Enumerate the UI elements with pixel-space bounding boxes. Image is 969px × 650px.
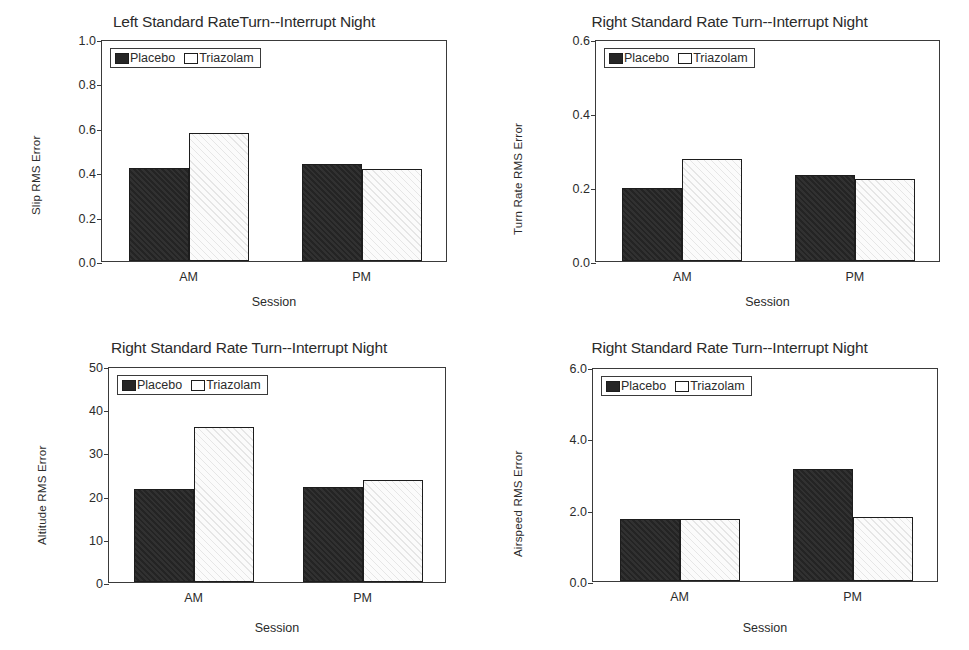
legend-swatch-placebo-icon <box>115 53 129 64</box>
y-axis-tick-mark <box>591 263 596 264</box>
legend-label: Triazolam <box>690 379 744 393</box>
figure-grid: Left Standard RateTurn--Interrupt Night … <box>0 0 969 650</box>
y-axis-tick-mark <box>591 41 596 42</box>
legend-item-triazolam: Triazolam <box>675 379 744 393</box>
x-axis-tick-label: AM <box>670 590 689 604</box>
chart-panel-altitude: Right Standard Rate Turn--Interrupt Nigh… <box>0 325 490 650</box>
y-axis-tick-mark <box>97 85 102 86</box>
legend-label: Triazolam <box>693 51 747 65</box>
x-axis-label: Session <box>108 621 446 635</box>
bar-turn-rate-am-triazolam <box>682 159 742 261</box>
legend-label: Placebo <box>130 51 175 65</box>
x-axis-label: Session <box>101 295 447 309</box>
y-axis-tick-mark <box>97 174 102 175</box>
plot-area: 0.02.04.06.0AMPMPlaceboTriazolam <box>592 368 938 582</box>
y-axis-tick-mark <box>97 219 102 220</box>
bar-slip-am-placebo <box>129 168 189 261</box>
y-axis-tick-mark <box>104 498 109 499</box>
y-axis-tick-mark <box>97 263 102 264</box>
y-axis-tick-mark <box>104 368 109 369</box>
plot-area: 01020304050AMPMPlaceboTriazolam <box>108 367 446 583</box>
y-axis-tick-mark <box>97 41 102 42</box>
legend-item-placebo: Placebo <box>122 378 182 392</box>
chart-panel-airspeed: Right Standard Rate Turn--Interrupt Nigh… <box>490 325 969 650</box>
bar-altitude-pm-triazolam <box>363 480 423 582</box>
bar-airspeed-pm-triazolam <box>853 517 913 581</box>
bar-altitude-pm-placebo <box>303 487 363 582</box>
chart-legend: PlaceboTriazolam <box>110 48 261 68</box>
legend-swatch-placebo-icon <box>122 380 136 391</box>
chart-legend: PlaceboTriazolam <box>117 375 268 395</box>
x-axis-tick-label: PM <box>843 590 862 604</box>
legend-item-triazolam: Triazolam <box>191 378 260 392</box>
bar-altitude-am-triazolam <box>194 427 254 582</box>
legend-swatch-triazolam-icon <box>678 53 692 64</box>
y-axis-tick-mark <box>104 454 109 455</box>
legend-label: Triazolam <box>206 378 260 392</box>
y-axis-tick-mark <box>588 440 593 441</box>
y-axis-tick-mark <box>104 541 109 542</box>
chart-title: Left Standard RateTurn--Interrupt Night <box>12 13 476 31</box>
bar-altitude-am-placebo <box>134 489 194 582</box>
legend-label: Placebo <box>621 379 666 393</box>
x-axis-tick-label: PM <box>352 270 371 284</box>
chart-legend: PlaceboTriazolam <box>604 48 755 68</box>
legend-item-placebo: Placebo <box>115 51 175 65</box>
bar-turn-rate-pm-placebo <box>795 175 855 261</box>
legend-item-triazolam: Triazolam <box>678 51 747 65</box>
y-axis-label: Turn Rate RMS Error <box>512 123 524 235</box>
y-axis-tick-mark <box>591 189 596 190</box>
bar-airspeed-am-placebo <box>620 519 680 581</box>
x-axis-tick-label: PM <box>353 591 372 605</box>
y-axis-tick-mark <box>588 583 593 584</box>
legend-label: Placebo <box>624 51 669 65</box>
bar-slip-am-triazolam <box>189 133 249 261</box>
chart-legend: PlaceboTriazolam <box>601 376 752 396</box>
legend-item-triazolam: Triazolam <box>184 51 253 65</box>
bar-airspeed-pm-placebo <box>793 469 853 581</box>
y-axis-tick-mark <box>588 369 593 370</box>
chart-panel-slip: Left Standard RateTurn--Interrupt Night … <box>0 0 490 325</box>
y-axis-label: Airspeed RMS Error <box>512 451 524 558</box>
y-axis-label: Altitude RMS Error <box>36 446 48 545</box>
x-axis-tick-label: AM <box>179 270 198 284</box>
legend-swatch-triazolam-icon <box>675 381 689 392</box>
bar-slip-pm-triazolam <box>362 169 422 261</box>
y-axis-tick-mark <box>588 512 593 513</box>
chart-title: Right Standard Rate Turn--Interrupt Nigh… <box>500 339 959 357</box>
legend-swatch-placebo-icon <box>609 53 623 64</box>
legend-label: Triazolam <box>199 51 253 65</box>
legend-swatch-placebo-icon <box>606 381 620 392</box>
plot-area: 0.00.20.40.60.81.0AMPMPlaceboTriazolam <box>101 40 447 262</box>
y-axis-tick-mark <box>104 584 109 585</box>
x-axis-tick-label: PM <box>845 270 864 284</box>
y-axis-label: Slip RMS Error <box>30 136 42 215</box>
legend-swatch-triazolam-icon <box>184 53 198 64</box>
bar-turn-rate-am-placebo <box>622 188 682 261</box>
x-axis-tick-label: AM <box>184 591 203 605</box>
y-axis-tick-mark <box>591 115 596 116</box>
legend-item-placebo: Placebo <box>606 379 666 393</box>
plot-area: 0.00.20.40.6AMPMPlaceboTriazolam <box>595 40 940 262</box>
y-axis-tick-mark <box>97 130 102 131</box>
x-axis-label: Session <box>592 621 938 635</box>
chart-title: Right Standard Rate Turn--Interrupt Nigh… <box>18 339 480 357</box>
bar-turn-rate-pm-triazolam <box>855 179 915 261</box>
bar-slip-pm-placebo <box>302 164 362 261</box>
x-axis-tick-label: AM <box>673 270 692 284</box>
bar-airspeed-am-triazolam <box>680 519 740 581</box>
legend-item-placebo: Placebo <box>609 51 669 65</box>
legend-swatch-triazolam-icon <box>191 380 205 391</box>
chart-title: Right Standard Rate Turn--Interrupt Nigh… <box>500 13 959 31</box>
x-axis-label: Session <box>595 295 940 309</box>
legend-label: Placebo <box>137 378 182 392</box>
chart-panel-turn-rate: Right Standard Rate Turn--Interrupt Nigh… <box>490 0 969 325</box>
y-axis-tick-mark <box>104 411 109 412</box>
